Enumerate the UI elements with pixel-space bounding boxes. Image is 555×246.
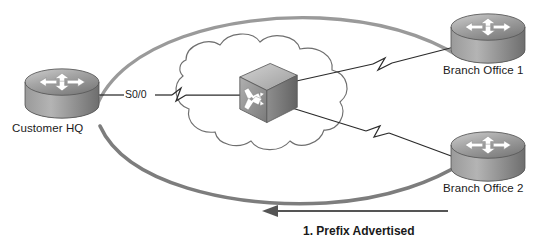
label-branch-office-1: Branch Office 1 [443,64,524,76]
network-topology-diagram: Customer HQ S0/0 Branch Office 1 Branch … [0,0,555,246]
label-customer-hq: Customer HQ [12,122,83,134]
router-icon-customer-hq [25,69,99,118]
serial-bolt-branch2 [366,126,389,137]
label-branch-office-2: Branch Office 2 [443,182,524,194]
router-icon-branch-office-2 [451,132,525,181]
flow-arrow-head [262,205,278,217]
label-interface-s0-0: S0/0 [125,88,147,100]
router-icon-branch-office-1 [451,14,525,63]
caption-prefix-advertised: 1. Prefix Advertised [303,224,415,238]
prefix-flow-arrow [262,205,448,217]
serial-bolt-branch1 [373,58,392,70]
